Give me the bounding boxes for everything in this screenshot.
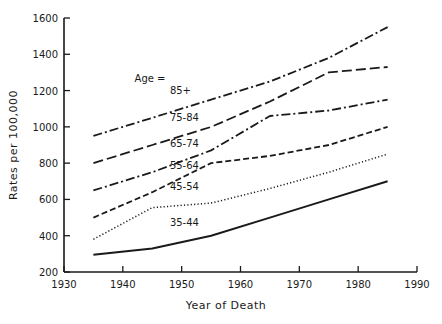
y-axis-title: Rates per 100,000 [7, 90, 20, 200]
series-lines [93, 27, 387, 255]
y-tick-label: 1000 [33, 122, 58, 133]
x-tick-label: 1930 [51, 279, 76, 290]
series-line-55-64 [93, 127, 387, 218]
axes [64, 18, 417, 272]
x-axis-title: Year of Death [185, 299, 267, 312]
series-labels: Age =85+75-8465-7455-6445-5435-44 [135, 73, 199, 228]
series-label: 65-74 [170, 138, 199, 149]
x-axis-ticks: 1930194019501960197019801990 [51, 266, 429, 290]
y-tick-label: 200 [39, 267, 58, 278]
y-tick-label: 1400 [33, 49, 58, 60]
x-tick-label: 1950 [169, 279, 194, 290]
x-tick-label: 1940 [110, 279, 135, 290]
series-label: 55-64 [170, 160, 199, 171]
x-tick-label: 1990 [404, 279, 429, 290]
series-label: 75-84 [170, 112, 199, 123]
legend-header: Age = [135, 73, 166, 84]
y-tick-label: 1600 [33, 13, 58, 24]
y-tick-label: 800 [39, 158, 58, 169]
y-tick-label: 400 [39, 231, 58, 242]
y-tick-label: 1200 [33, 86, 58, 97]
series-label: 85+ [170, 85, 191, 96]
series-line-35-44 [93, 181, 387, 255]
x-tick-label: 1960 [228, 279, 253, 290]
series-label: 35-44 [170, 217, 199, 228]
y-tick-label: 600 [39, 194, 58, 205]
line-chart: 2004006008001000120014001600 19301940195… [0, 0, 442, 324]
x-tick-label: 1970 [287, 279, 312, 290]
series-label: 45-54 [170, 181, 199, 192]
x-tick-label: 1980 [345, 279, 370, 290]
